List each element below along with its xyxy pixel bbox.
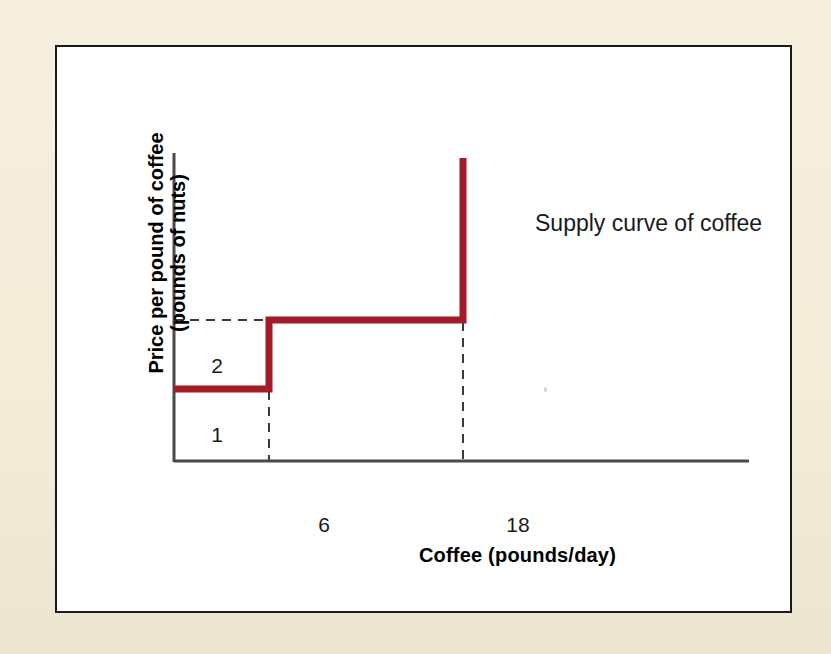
x-tick-label-6: 6 <box>304 513 344 537</box>
plot-area: 2 1 6 18 Coffee (pounds/day) Price per p… <box>57 47 790 611</box>
figure-root: 2 1 6 18 Coffee (pounds/day) Price per p… <box>0 0 831 654</box>
supply-curve-annotation: Supply curve of coffee <box>535 210 762 237</box>
x-tick-label-18: 18 <box>493 513 543 537</box>
x-axis-title: Coffee (pounds/day) <box>230 544 805 567</box>
chart-graphics <box>57 47 790 611</box>
y-tick-label-2: 2 <box>197 354 223 378</box>
scan-artifact-speck <box>544 387 547 392</box>
y-tick-label-1: 1 <box>197 423 223 447</box>
chart-panel: 2 1 6 18 Coffee (pounds/day) Price per p… <box>55 45 792 613</box>
